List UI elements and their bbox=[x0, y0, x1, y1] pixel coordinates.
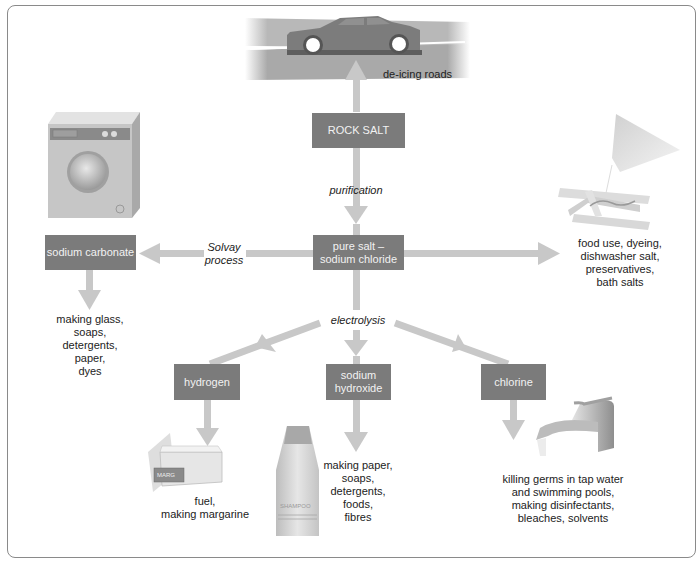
node-hydrogen-label: hydrogen bbox=[184, 376, 230, 389]
use-line: and swimming pools, bbox=[493, 486, 633, 499]
tap-illustration bbox=[536, 398, 614, 456]
uses-sodium-carbonate: making glass, soaps, detergents, paper, … bbox=[40, 313, 140, 378]
salt-shaker-food-illustration bbox=[558, 114, 680, 230]
use-line: paper, bbox=[40, 352, 140, 365]
process-solvay-line2: process bbox=[198, 254, 250, 267]
washing-machine-illustration bbox=[48, 112, 140, 218]
svg-text:MARG: MARG bbox=[157, 472, 175, 478]
use-line: preservatives, bbox=[558, 263, 682, 276]
node-hydrogen: hydrogen bbox=[174, 364, 240, 400]
process-electrolysis: electrolysis bbox=[318, 314, 398, 327]
node-sodium-hydroxide-line1: sodium bbox=[341, 369, 376, 382]
node-rock-salt-label: ROCK SALT bbox=[328, 124, 390, 137]
use-line: dishwasher salt, bbox=[558, 250, 682, 263]
use-line: bleaches, solvents bbox=[493, 512, 633, 525]
uses-rock-salt: de-icing roads bbox=[383, 68, 483, 81]
use-line: soaps, bbox=[40, 326, 140, 339]
node-sodium-carbonate: sodium carbonate bbox=[45, 235, 136, 270]
margarine-tub-illustration: MARG bbox=[148, 433, 222, 492]
use-line: detergents, bbox=[318, 485, 398, 498]
svg-text:SHAMPOO: SHAMPOO bbox=[280, 503, 311, 509]
use-line: soaps, bbox=[318, 472, 398, 485]
use-line: fibres bbox=[318, 511, 398, 524]
node-pure-salt: pure salt – sodium chloride bbox=[313, 235, 404, 270]
uses-hydrogen: fuel, making margarine bbox=[150, 495, 260, 521]
shampoo-bottle-illustration: SHAMPOO bbox=[276, 426, 319, 536]
node-rock-salt: ROCK SALT bbox=[312, 113, 405, 148]
use-line: making margarine bbox=[150, 508, 260, 521]
node-pure-salt-line1: pure salt – bbox=[333, 240, 384, 253]
process-purification: purification bbox=[316, 184, 396, 197]
node-sodium-carbonate-label: sodium carbonate bbox=[47, 246, 134, 259]
use-line: killing germs in tap water bbox=[493, 473, 633, 486]
uses-pure-salt: food use, dyeing, dishwasher salt, prese… bbox=[558, 237, 682, 289]
use-line: dyes bbox=[40, 365, 140, 378]
uses-sodium-hydroxide: making paper, soaps, detergents, foods, … bbox=[318, 459, 398, 524]
use-line: foods, bbox=[318, 498, 398, 511]
use-line: making paper, bbox=[318, 459, 398, 472]
use-line: making disinfectants, bbox=[493, 499, 633, 512]
use-line: making glass, bbox=[40, 313, 140, 326]
use-line: detergents, bbox=[40, 339, 140, 352]
use-line: food use, dyeing, bbox=[558, 237, 682, 250]
process-solvay-line1: Solvay bbox=[198, 241, 250, 254]
node-chlorine: chlorine bbox=[481, 364, 546, 400]
node-sodium-hydroxide-line2: hydroxide bbox=[335, 382, 383, 395]
use-line: de-icing roads bbox=[383, 68, 483, 81]
node-chlorine-label: chlorine bbox=[494, 376, 533, 389]
uses-chlorine: killing germs in tap water and swimming … bbox=[493, 473, 633, 525]
process-solvay: Solvay process bbox=[198, 241, 250, 267]
use-line: fuel, bbox=[150, 495, 260, 508]
node-pure-salt-line2: sodium chloride bbox=[320, 253, 397, 266]
node-sodium-hydroxide: sodium hydroxide bbox=[326, 364, 391, 400]
use-line: bath salts bbox=[558, 276, 682, 289]
